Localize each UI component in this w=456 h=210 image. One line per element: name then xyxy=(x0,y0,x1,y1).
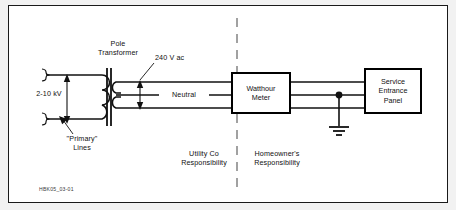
primary-brace-upper-icon xyxy=(42,69,50,81)
secondary-voltage-arrow-up-icon xyxy=(137,80,143,88)
secondary-voltage-arrow-down-icon xyxy=(137,102,143,110)
primary-voltage-label: 2-10 kV xyxy=(23,89,75,98)
transformer-secondary-winding-lower xyxy=(112,97,121,108)
secondary-voltage-leader xyxy=(140,63,154,80)
watthour-meter-box[interactable]: Watthour Meter xyxy=(231,72,291,114)
transformer-secondary-winding-upper xyxy=(112,82,121,93)
utility-responsibility-label: Utility Co Responsibility xyxy=(172,149,236,168)
service-entrance-panel-label: Service Entrance Panel xyxy=(366,77,420,105)
homeowner-responsibility-label: Homeowner's Responsibility xyxy=(241,149,313,168)
figure-code-label: HBK05_03-01 xyxy=(39,186,74,193)
service-entrance-panel-box[interactable]: Service Entrance Panel xyxy=(364,68,422,114)
figure-canvas: 2-10 kV "Primary" Lines Pole Transformer… xyxy=(0,0,456,210)
primary-lines-label: "Primary" Lines xyxy=(49,134,115,153)
primary-brace-lower-icon xyxy=(42,113,50,125)
figure-border: 2-10 kV "Primary" Lines Pole Transformer… xyxy=(8,5,448,203)
primary-lines-leader xyxy=(63,120,73,134)
watthour-meter-label: Watthour Meter xyxy=(233,84,289,103)
secondary-voltage-label: 240 V ac xyxy=(155,53,211,62)
pole-transformer-label: Pole Transformer xyxy=(87,39,149,58)
neutral-label: Neutral xyxy=(159,90,209,99)
